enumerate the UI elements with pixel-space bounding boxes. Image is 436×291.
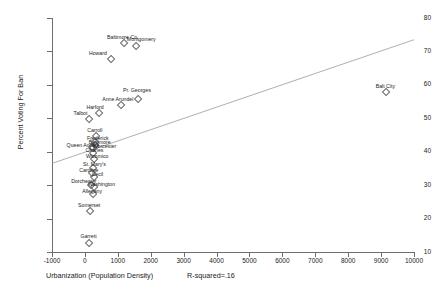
data-point-label: Harford xyxy=(86,105,103,111)
data-point-label: Allegany xyxy=(82,189,102,195)
data-point-label: Pr. Georges xyxy=(123,88,151,94)
r-squared-annotation: R-squared=.16 xyxy=(187,271,235,280)
data-point-label: Howard xyxy=(89,51,107,57)
data-point-label: Garrett xyxy=(80,234,96,240)
data-point-label: Somerset xyxy=(78,203,100,209)
data-point-label: Montgomery xyxy=(127,37,156,43)
caption-row: Urbanization (Population Density) R-squa… xyxy=(46,271,235,280)
data-point-label: Balt City xyxy=(376,84,395,90)
data-point-label: Anne Arundel xyxy=(102,97,133,103)
data-point-label: Wicomico xyxy=(86,154,108,160)
data-point-label: Talbot xyxy=(74,111,88,117)
x-axis-title: Urbanization (Population Density) xyxy=(46,271,153,280)
data-point-label: Washington xyxy=(88,182,115,188)
data-point-label: Carroll xyxy=(87,128,102,134)
